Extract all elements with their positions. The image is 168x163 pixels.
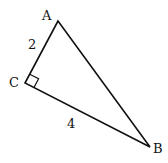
triangle-diagram: A C B 2 4: [0, 0, 168, 163]
triangle-abc: [25, 21, 150, 147]
vertex-label-c: C: [9, 75, 19, 90]
vertex-label-a: A: [41, 8, 52, 23]
vertex-label-b: B: [153, 141, 163, 156]
side-label-cb: 4: [67, 116, 75, 131]
side-label-ac: 2: [28, 37, 36, 52]
